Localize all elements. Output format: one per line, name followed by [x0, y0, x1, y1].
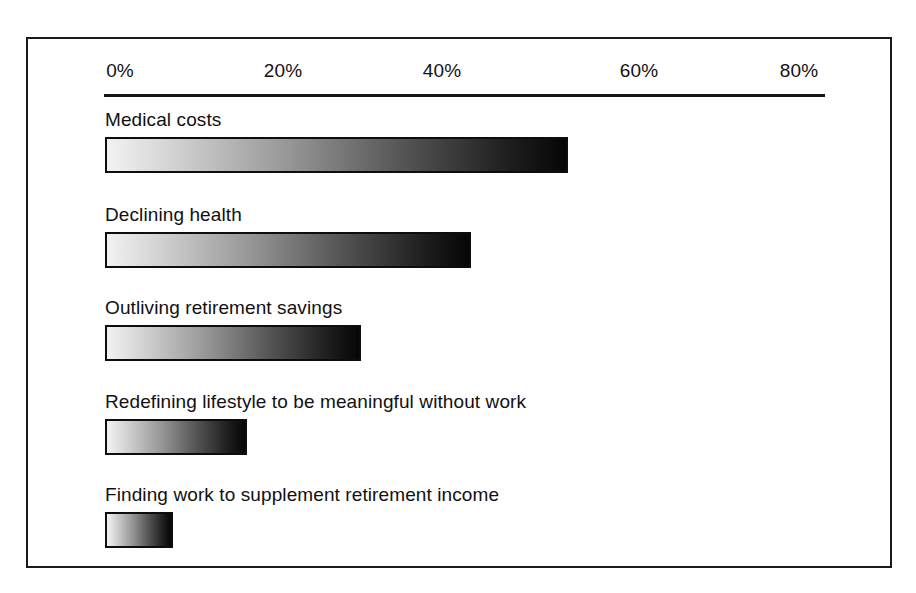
- axis-tick-label-4: 80%: [780, 60, 818, 82]
- bar-group-declining-health: Declining health: [105, 204, 471, 268]
- axis-tick-label-1: 20%: [264, 60, 302, 82]
- bar-group-outliving-retirement-savings: Outliving retirement savings: [105, 297, 361, 361]
- bar-label: Finding work to supplement retirement in…: [105, 484, 499, 506]
- plot-area: 0% 20% 40% 60% 80% Medical costs Declini…: [28, 39, 890, 566]
- axis-tick-label-2: 40%: [423, 60, 461, 82]
- bar-rect: [105, 419, 247, 455]
- bar-label: Medical costs: [105, 109, 568, 131]
- bar-group-redefining-lifestyle: Redefining lifestyle to be meaningful wi…: [105, 391, 526, 455]
- x-axis-line: [104, 94, 825, 97]
- bar-rect: [105, 137, 568, 173]
- bar-label: Outliving retirement savings: [105, 297, 361, 319]
- axis-tick-label-0: 0%: [106, 60, 134, 82]
- bar-group-medical-costs: Medical costs: [105, 109, 568, 173]
- bar-rect: [105, 325, 361, 361]
- bar-group-finding-work: Finding work to supplement retirement in…: [105, 484, 499, 548]
- bar-rect: [105, 232, 471, 268]
- bar-label: Declining health: [105, 204, 471, 226]
- axis-tick-label-3: 60%: [620, 60, 658, 82]
- chart-frame: 0% 20% 40% 60% 80% Medical costs Declini…: [26, 37, 892, 568]
- bar-label: Redefining lifestyle to be meaningful wi…: [105, 391, 526, 413]
- bar-rect: [105, 512, 173, 548]
